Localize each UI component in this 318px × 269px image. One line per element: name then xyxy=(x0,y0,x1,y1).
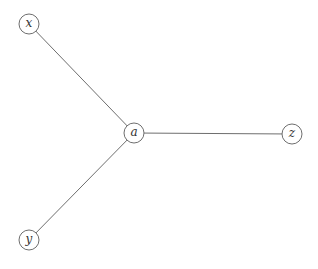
node-x: x xyxy=(19,14,39,34)
node-x-label: x xyxy=(26,16,33,30)
edge-x-a xyxy=(29,24,134,133)
node-y-label: y xyxy=(25,232,33,246)
edge-y-a xyxy=(29,133,134,240)
node-z: z xyxy=(282,124,302,144)
graph-diagram: x a z y xyxy=(0,0,318,269)
edges xyxy=(29,24,292,240)
edge-a-z xyxy=(134,133,292,134)
node-a-label: a xyxy=(130,125,137,139)
node-y: y xyxy=(19,230,39,250)
node-z-label: z xyxy=(288,126,296,140)
node-a: a xyxy=(124,123,144,143)
